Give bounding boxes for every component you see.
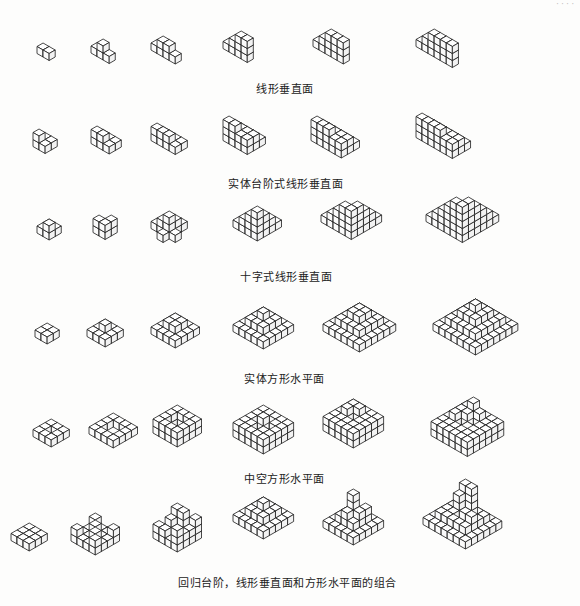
isometric-cubes-icon <box>90 38 116 65</box>
isometric-cubes-icon <box>322 302 397 353</box>
isometric-cubes-icon <box>415 28 459 69</box>
isometric-cubes-icon <box>32 418 70 448</box>
block-figure-row1-2 <box>90 38 116 65</box>
block-figure-row5-5 <box>322 398 385 449</box>
isometric-cubes-icon <box>322 398 385 449</box>
isometric-cubes-icon <box>430 396 505 458</box>
row-caption-5: 中空方形水平面 <box>244 470 325 486</box>
isometric-cubes-icon <box>322 488 385 546</box>
block-figure-row1-5 <box>312 28 350 65</box>
isometric-cubes-icon <box>310 115 360 159</box>
block-figure-row6-6 <box>422 478 503 550</box>
isometric-cubes-icon <box>150 122 188 156</box>
block-figure-row6-2 <box>70 512 120 556</box>
block-figure-row5-6 <box>430 396 505 458</box>
row-caption-1: 线形垂直面 <box>256 80 314 96</box>
isometric-cubes-icon <box>90 125 122 155</box>
block-figure-row1-4 <box>222 30 254 64</box>
isometric-cubes-icon <box>232 205 282 242</box>
isometric-cubes-icon <box>152 404 202 448</box>
row-caption-2: 实体台阶式线形垂直面 <box>228 175 343 191</box>
block-figure-row3-3 <box>150 210 188 244</box>
row-caption-6: 回归台阶，线形垂直面和方形水平面的组合 <box>178 574 397 590</box>
block-figure-row2-6 <box>415 112 472 160</box>
isometric-cubes-icon <box>152 502 202 553</box>
isometric-cubes-icon <box>320 200 383 241</box>
isometric-cubes-icon <box>32 128 58 155</box>
block-figure-row1-6 <box>415 28 459 69</box>
isometric-cubes-icon <box>34 322 60 345</box>
isometric-cubes-icon <box>70 512 120 556</box>
isometric-cubes-icon <box>36 218 62 241</box>
block-figure-row4-1 <box>34 322 60 345</box>
block-figure-row6-5 <box>322 488 385 546</box>
row-caption-4: 实体方形水平面 <box>244 370 325 386</box>
block-figure-row3-5 <box>320 200 383 241</box>
block-figure-row2-2 <box>90 125 122 155</box>
isometric-cubes-icon <box>415 112 472 160</box>
isometric-cubes-icon <box>88 412 138 449</box>
block-figure-row2-3 <box>150 122 188 156</box>
block-figure-row3-2 <box>92 214 118 241</box>
isometric-cubes-icon <box>312 28 350 65</box>
isometric-cubes-icon <box>232 496 295 540</box>
block-figure-row4-2 <box>86 318 124 348</box>
block-figure-row4-5 <box>322 302 397 353</box>
block-figure-row4-6 <box>432 298 519 356</box>
block-figure-row5-3 <box>152 404 202 448</box>
block-figure-row1-3 <box>150 35 182 65</box>
isometric-cubes-icon <box>86 318 124 348</box>
isometric-cubes-icon <box>150 35 182 65</box>
isometric-cubes-icon <box>422 478 503 550</box>
page-number-mark: · · · · <box>556 0 574 9</box>
block-figure-row3-1 <box>36 218 62 241</box>
isometric-cubes-icon <box>36 42 56 62</box>
isometric-cubes-icon <box>10 522 48 552</box>
block-figure-row3-4 <box>232 205 282 242</box>
isometric-cubes-icon <box>150 210 188 244</box>
row-caption-3: 十字式线形垂直面 <box>240 268 332 284</box>
block-figure-row6-1 <box>10 522 48 552</box>
block-figure-row5-1 <box>32 418 70 448</box>
block-figure-row6-3 <box>152 502 202 553</box>
block-figure-row2-5 <box>310 115 360 159</box>
isometric-cubes-icon <box>232 404 295 455</box>
block-figure-row4-3 <box>150 312 200 349</box>
isometric-cubes-icon <box>92 214 118 241</box>
isometric-cubes-icon <box>222 115 266 156</box>
block-figure-row6-4 <box>232 496 295 540</box>
isometric-cubes-icon <box>425 196 500 244</box>
block-figure-row3-6 <box>425 196 500 244</box>
block-figure-row4-4 <box>232 306 295 350</box>
block-figure-row1-1 <box>36 42 56 62</box>
block-figure-row2-4 <box>222 115 266 156</box>
block-figure-row2-1 <box>32 128 58 155</box>
isometric-cubes-icon <box>232 306 295 350</box>
isometric-cubes-icon <box>222 30 254 64</box>
isometric-cubes-icon <box>432 298 519 356</box>
block-figure-row5-2 <box>88 412 138 449</box>
block-figure-row5-4 <box>232 404 295 455</box>
isometric-cubes-icon <box>150 312 200 349</box>
